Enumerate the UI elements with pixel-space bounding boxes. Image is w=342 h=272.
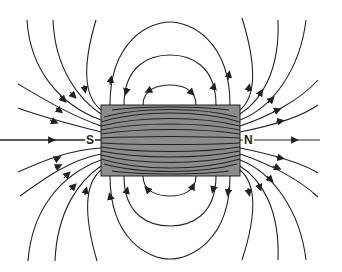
north-pole-label: N (243, 134, 254, 146)
bar-magnet (101, 105, 240, 176)
south-pole-label: S (85, 134, 95, 146)
bar-magnet-field-diagram (0, 0, 342, 272)
